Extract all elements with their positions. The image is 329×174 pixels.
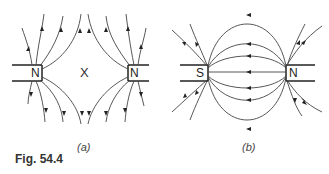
pole-label-a-left: N (31, 66, 40, 80)
neutral-point-label: X (80, 65, 89, 80)
field-lines-b (172, 13, 322, 131)
pole-label-a-right: N (130, 66, 139, 80)
panel-label-b: (b) (242, 141, 255, 153)
figure-caption: Fig. 54.4 (15, 152, 63, 166)
pole-label-b-left: S (196, 66, 204, 80)
magnetic-field-diagram (0, 0, 329, 174)
pole-label-b-right: N (289, 66, 298, 80)
panel-label-a: (a) (77, 141, 90, 153)
